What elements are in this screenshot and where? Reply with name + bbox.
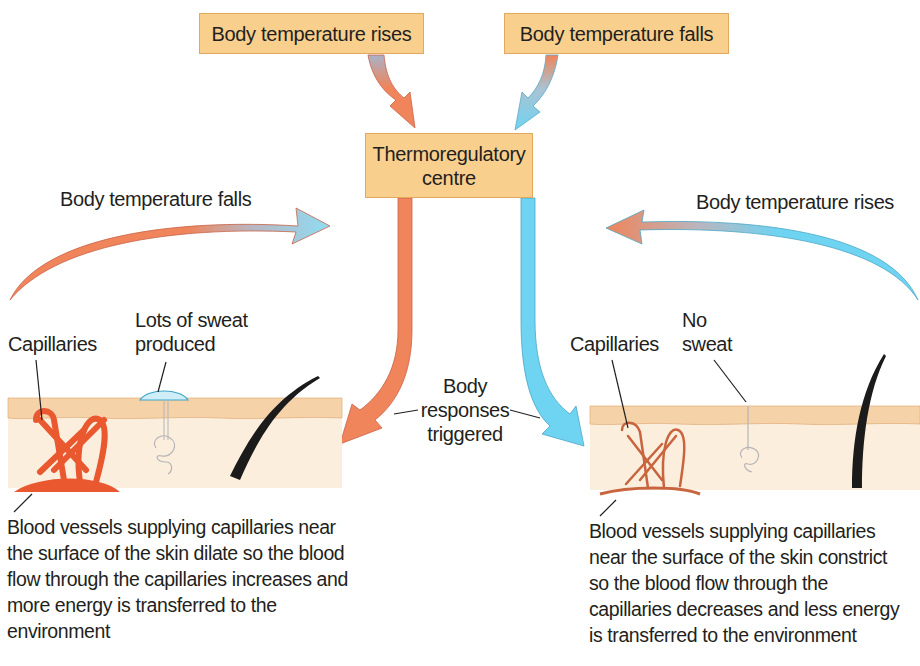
box-label: Body temperature rises bbox=[211, 22, 411, 46]
sweat-label-line2: produced bbox=[135, 332, 248, 356]
middle-label-line3: triggered bbox=[418, 422, 512, 446]
left-skin-section bbox=[8, 376, 342, 492]
arrow-left-arc bbox=[10, 208, 330, 300]
arrow-falls-to-centre bbox=[515, 55, 558, 130]
leader-responses-left bbox=[394, 410, 418, 414]
arrow-rises-to-centre bbox=[368, 55, 415, 128]
label-right-capillaries: Capillaries bbox=[570, 332, 659, 356]
centre-label-line2: centre bbox=[422, 166, 476, 190]
sweat-label-line1: Lots of sweat bbox=[135, 308, 248, 332]
leader-responses-right bbox=[510, 410, 540, 418]
box-label: Body temperature falls bbox=[520, 22, 714, 46]
sweat-label-line2: sweat bbox=[682, 332, 732, 356]
description-line: environment bbox=[7, 618, 348, 644]
arrow-right-arc bbox=[606, 210, 918, 300]
right-description: Blood vessels supplying capillaries near… bbox=[589, 518, 899, 648]
box-thermoregulatory-centre: Thermoregulatory centre bbox=[365, 133, 533, 198]
arrow-centre-to-right-skin bbox=[521, 198, 584, 446]
leader-left-sweat bbox=[158, 362, 166, 392]
label-left-arc: Body temperature falls bbox=[60, 187, 251, 211]
middle-label-line2: responses bbox=[418, 398, 512, 422]
label-left-capillaries: Capillaries bbox=[8, 332, 97, 356]
description-line: more energy is transferred to the bbox=[7, 592, 348, 618]
left-description: Blood vessels supplying capillaries near… bbox=[7, 514, 348, 644]
label-left-sweat: Lots of sweat produced bbox=[135, 308, 248, 356]
description-line: flow through the capillaries increases a… bbox=[7, 566, 348, 592]
description-line: so the blood flow through the bbox=[589, 570, 899, 596]
leader-right-sweat bbox=[714, 360, 746, 402]
description-line: near the surface of the skin constrict bbox=[589, 544, 899, 570]
centre-label-line1: Thermoregulatory bbox=[372, 142, 525, 166]
label-body-responses-triggered: Body responses triggered bbox=[418, 374, 512, 446]
leader-right-vessels bbox=[600, 500, 616, 516]
right-skin-section bbox=[590, 354, 920, 494]
arrow-centre-to-left-skin bbox=[340, 198, 412, 444]
description-line: the surface of the skin dilate so the bl… bbox=[7, 540, 348, 566]
leader-left-vessels bbox=[14, 494, 32, 512]
label-right-sweat: No sweat bbox=[682, 308, 732, 356]
middle-label-line1: Body bbox=[418, 374, 512, 398]
description-line: Blood vessels supplying capillaries near bbox=[7, 514, 348, 540]
description-line: Blood vessels supplying capillaries bbox=[589, 518, 899, 544]
box-body-temperature-falls: Body temperature falls bbox=[504, 13, 729, 54]
description-line: is transferred to the environment bbox=[589, 622, 899, 648]
label-right-arc: Body temperature rises bbox=[696, 190, 894, 214]
description-line: capillaries decreases and less energy bbox=[589, 596, 899, 622]
sweat-label-line1: No bbox=[682, 308, 732, 332]
box-body-temperature-rises: Body temperature rises bbox=[199, 13, 424, 54]
